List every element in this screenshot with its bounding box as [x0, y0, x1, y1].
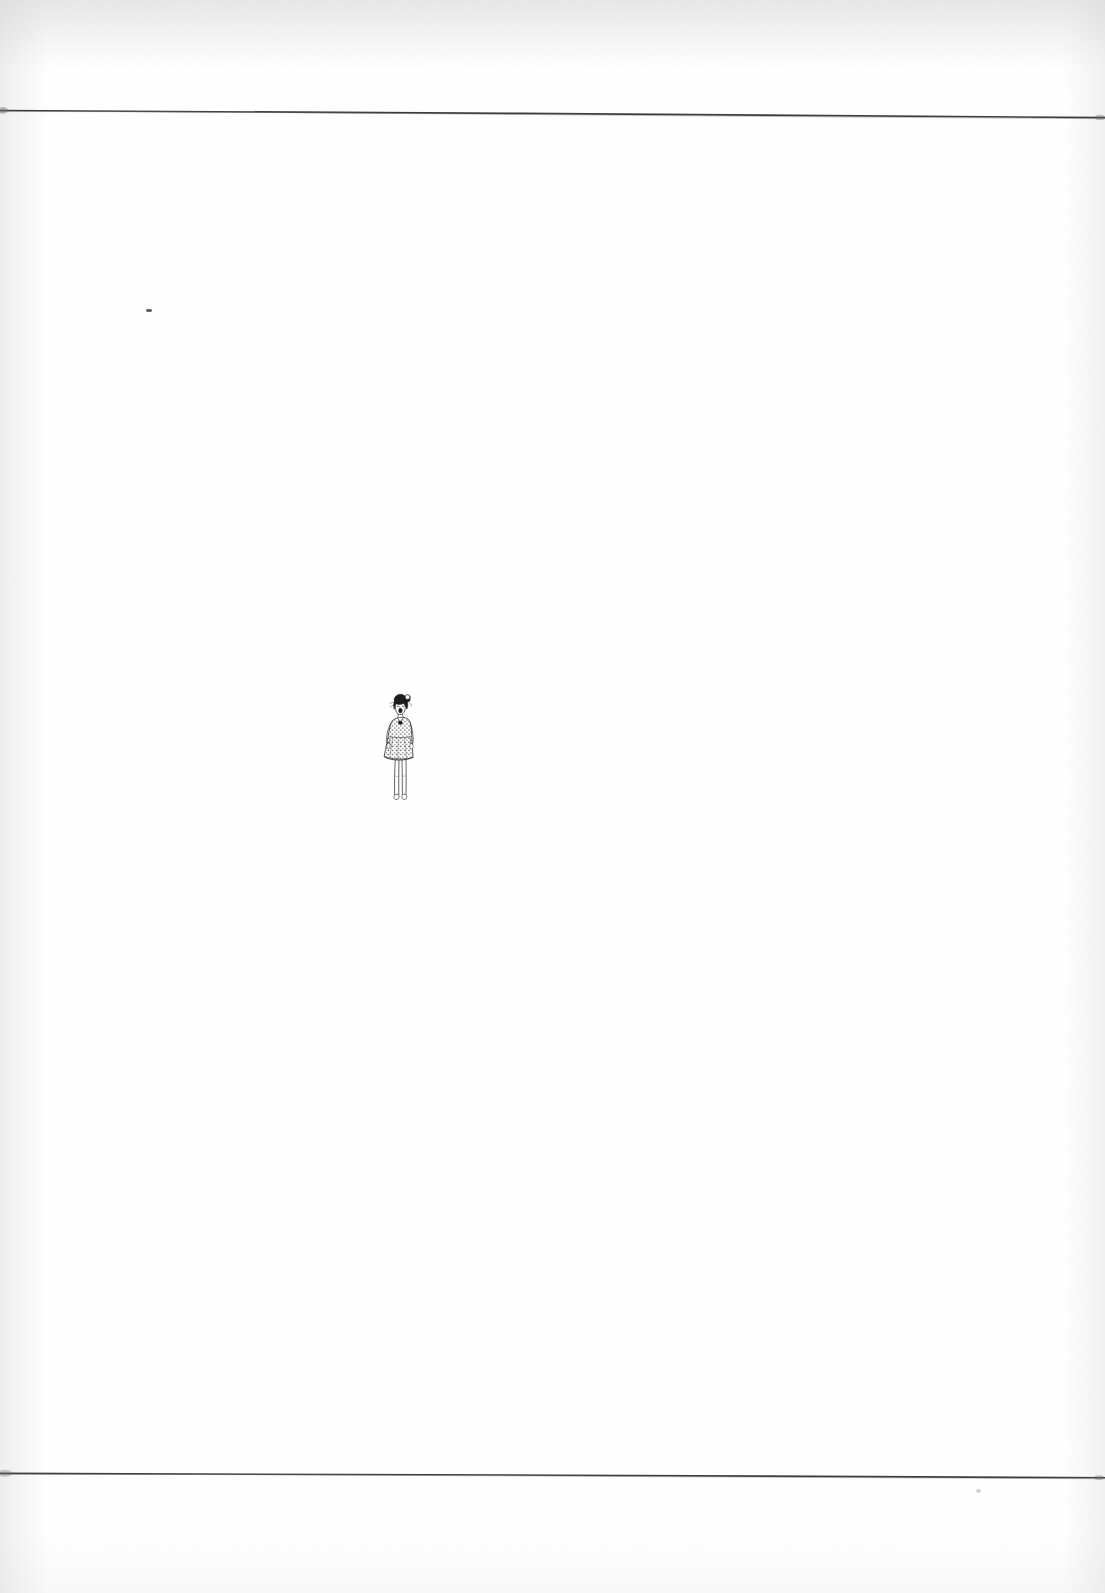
illustration-caption: Standing woman in polka-dot dress: [0, 0, 1, 1]
bottom-rule: [0, 1462, 1105, 1486]
ink-speck-lower-right: [976, 1489, 981, 1493]
ink-speck-upper-left: [146, 309, 152, 312]
illustration-description: Small pen-and-ink drawing of a woman wit…: [0, 0, 1, 1]
illustration-standing-woman: [371, 692, 433, 832]
scanned-page: Standing woman in polka-dot dress Small …: [0, 0, 1105, 1593]
paper-grain-overlay: [0, 0, 1105, 1593]
top-rule: [0, 100, 1105, 124]
paper-background: [0, 0, 1105, 1593]
